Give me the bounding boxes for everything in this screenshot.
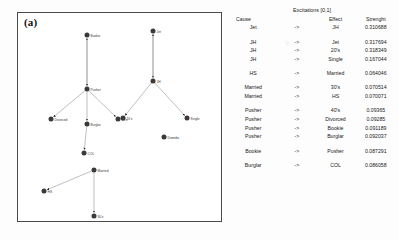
cell-effect: Married bbox=[315, 70, 355, 79]
graph-node[interactable]: 30's bbox=[92, 214, 104, 219]
table-row[interactable]: HS->Married0.064046 bbox=[228, 70, 396, 79]
node-dot bbox=[85, 87, 90, 92]
causal-graph-svg: BookiePusherDivorcedBurglar40'sCOLMarrie… bbox=[18, 13, 223, 223]
node-label: Single bbox=[191, 117, 200, 121]
graph-node[interactable]: Bookie bbox=[85, 33, 101, 38]
table-header-row: CauseEffectStrenght bbox=[228, 15, 396, 24]
node-dot bbox=[121, 116, 126, 121]
graph-node[interactable]: 20's bbox=[121, 116, 133, 121]
cell-strength: 0.318349 bbox=[356, 47, 396, 56]
node-label: Jet bbox=[157, 30, 161, 34]
node-label: COL bbox=[88, 152, 95, 156]
table-row[interactable]: Pusher->40's0.09365 bbox=[228, 107, 396, 116]
table-row[interactable]: JH->Single0.167044 bbox=[228, 55, 396, 64]
table-title: Excitations [0,1] bbox=[228, 6, 396, 15]
cell-arrow: -> bbox=[278, 147, 315, 156]
column-header-effect: Effect bbox=[315, 15, 355, 24]
cell-arrow: -> bbox=[278, 124, 315, 133]
cell-cause: Burglar bbox=[228, 161, 278, 170]
cell-effect: Burglar bbox=[315, 133, 355, 142]
node-dot bbox=[92, 214, 97, 219]
cell-cause: HS bbox=[228, 70, 278, 79]
table-row[interactable]: Pusher->Divorced0.09285 bbox=[228, 115, 396, 124]
graph-node[interactable]: HS bbox=[42, 189, 53, 194]
graph-node[interactable]: Married bbox=[92, 168, 109, 173]
cell-arrow: -> bbox=[278, 70, 315, 79]
graph-node[interactable]: COL bbox=[82, 151, 95, 156]
cell-cause: Married bbox=[228, 84, 278, 93]
cell-strength: 0.167044 bbox=[356, 55, 396, 64]
node-label: JH bbox=[157, 80, 162, 84]
table-title-row: Excitations [0,1] bbox=[228, 6, 396, 15]
cell-arrow: -> bbox=[278, 84, 315, 93]
node-label: Bookie bbox=[91, 34, 101, 38]
cell-effect: 40's bbox=[315, 107, 355, 116]
graph-node[interactable]: Divorced bbox=[49, 117, 68, 122]
cell-arrow: -> bbox=[278, 47, 315, 56]
cell-effect: 20's bbox=[315, 47, 355, 56]
graph-node[interactable]: Single bbox=[185, 116, 200, 121]
node-dot bbox=[116, 117, 121, 122]
column-header-strength: Strenght bbox=[356, 15, 396, 24]
table-row[interactable]: JH->20's0.318349 bbox=[228, 47, 396, 56]
graph-node[interactable]: Pusher bbox=[85, 87, 102, 92]
graph-edge bbox=[47, 171, 91, 190]
cell-effect: 30's bbox=[315, 84, 355, 93]
graph-edge bbox=[84, 127, 86, 150]
cell-strength: 0.064046 bbox=[356, 70, 396, 79]
table-row[interactable]: Burglar->COL0.086058 bbox=[228, 161, 396, 170]
column-header-cause: Cause bbox=[228, 15, 278, 24]
cell-strength: 0.087291 bbox=[356, 147, 396, 156]
node-dot bbox=[92, 168, 97, 173]
node-dot bbox=[151, 79, 156, 84]
cell-cause: Pusher bbox=[228, 115, 278, 124]
cell-strength: 0.091189 bbox=[356, 124, 396, 133]
graph-edge bbox=[155, 83, 185, 116]
graph-edge bbox=[54, 91, 85, 117]
table-row[interactable]: JH->Jet0.317694 bbox=[228, 38, 396, 47]
graph-node[interactable]: Jet bbox=[151, 29, 161, 34]
table-row[interactable]: Married->30's0.070514 bbox=[228, 84, 396, 93]
cell-cause: Pusher bbox=[228, 107, 278, 116]
cell-arrow: -> bbox=[278, 24, 315, 33]
table-row[interactable]: Bookie->Pusher0.087291 bbox=[228, 147, 396, 156]
excitations-table-panel: Excitations [0,1]CauseEffectStrenghtJet-… bbox=[228, 6, 396, 234]
graph-node[interactable]: Dweebs bbox=[162, 135, 180, 140]
table-row[interactable]: Jet->JH0.310688 bbox=[228, 24, 396, 33]
graph-edge bbox=[125, 83, 151, 115]
node-dot bbox=[185, 116, 190, 121]
cell-strength: 0.09365 bbox=[356, 107, 396, 116]
node-label: Divorced bbox=[55, 118, 68, 122]
cell-strength: 0.070071 bbox=[356, 92, 396, 101]
table-row[interactable]: Married->HS0.070071 bbox=[228, 92, 396, 101]
cell-strength: 0.310688 bbox=[356, 24, 396, 33]
cell-arrow: -> bbox=[278, 107, 315, 116]
table-row[interactable]: Pusher->Bookie0.091189 bbox=[228, 124, 396, 133]
cell-arrow: -> bbox=[278, 92, 315, 101]
table-row[interactable]: Pusher->Burglar0.092037 bbox=[228, 133, 396, 142]
node-label: Dweebs bbox=[168, 136, 180, 140]
node-dot bbox=[85, 122, 90, 127]
cell-strength: 0.09285 bbox=[356, 115, 396, 124]
node-label: HS bbox=[48, 190, 52, 194]
excitations-table: Excitations [0,1]CauseEffectStrenghtJet-… bbox=[228, 6, 396, 170]
node-dot bbox=[42, 189, 47, 194]
graph-node[interactable]: JH bbox=[151, 79, 162, 84]
cell-arrow: -> bbox=[278, 115, 315, 124]
cell-effect: Bookie bbox=[315, 124, 355, 133]
graph-node[interactable]: Burglar bbox=[85, 122, 102, 127]
node-dot bbox=[85, 33, 90, 38]
node-dot bbox=[49, 117, 54, 122]
causal-graph-panel: (a) BookiePusherDivorcedBurglar40'sCOLMa… bbox=[17, 12, 222, 222]
node-label: Married bbox=[98, 169, 109, 173]
node-label: Burglar bbox=[91, 123, 102, 127]
cell-strength: 0.092037 bbox=[356, 133, 396, 142]
node-label: 20's bbox=[127, 117, 133, 121]
cell-arrow: -> bbox=[278, 55, 315, 64]
cell-strength: 0.070514 bbox=[356, 84, 396, 93]
cell-effect: JH bbox=[315, 24, 355, 33]
graph-edges bbox=[47, 34, 185, 213]
node-dot bbox=[151, 29, 156, 34]
cell-arrow: -> bbox=[278, 161, 315, 170]
cell-strength: 0.317694 bbox=[356, 38, 396, 47]
